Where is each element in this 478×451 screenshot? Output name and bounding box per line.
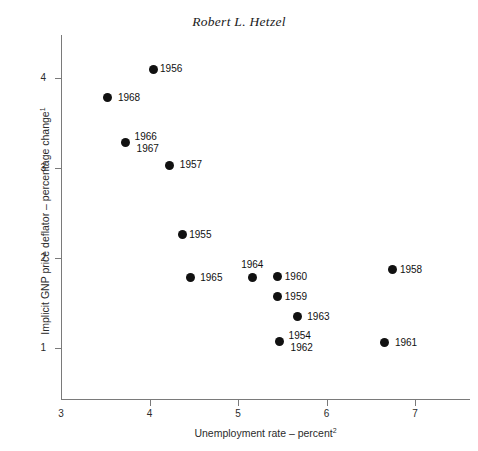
data-point-label: 1957 [180, 159, 202, 171]
y-tick-label: 4 [16, 72, 46, 83]
data-point-label: 1965 [200, 272, 222, 284]
data-point-label: 1964 [241, 259, 263, 271]
x-tick-label: 7 [400, 408, 430, 419]
x-tick-label: 4 [135, 408, 165, 419]
data-point-label: 1955 [189, 229, 211, 241]
y-tick-mark [55, 78, 61, 79]
data-point-label: 1963 [307, 311, 329, 323]
plot-area: 1234 34567 19561968196619671957195519651… [0, 0, 478, 451]
x-axis-title-superscript: 2 [333, 427, 337, 434]
x-axis-line [61, 399, 470, 400]
x-tick-mark [327, 400, 328, 406]
data-point-marker [273, 272, 282, 281]
data-point-label: 1956 [160, 63, 182, 75]
data-point-marker [273, 292, 282, 301]
data-point-label: 1960 [285, 271, 307, 283]
data-point-label: 1962 [291, 342, 313, 354]
y-axis-title-text: Implicit GNP price deflator – percentage… [39, 111, 51, 334]
x-tick-mark [415, 400, 416, 406]
data-point-label: 1968 [118, 92, 140, 104]
y-tick-mark [55, 168, 61, 169]
data-point-marker [121, 138, 130, 147]
data-point-marker [186, 273, 195, 282]
data-point-marker [293, 312, 302, 321]
x-tick-label: 3 [46, 408, 76, 419]
x-tick-mark [238, 400, 239, 406]
data-point-label: 1958 [400, 264, 422, 276]
data-point-marker [103, 93, 112, 102]
x-axis-title: Unemployment rate – percent2 [61, 427, 470, 439]
data-point-marker [165, 161, 174, 170]
y-axis-title: Implicit GNP price deflator – percentage… [39, 91, 51, 351]
data-point-label: 1967 [137, 143, 159, 155]
x-tick-label: 6 [312, 408, 342, 419]
scatter-plot-figure: Robert L. Hetzel 1234 34567 195619681966… [0, 0, 478, 451]
data-point-marker [275, 337, 284, 346]
data-point-marker [178, 230, 187, 239]
y-axis-title-superscript: 1 [39, 107, 46, 111]
data-point-marker [149, 65, 158, 74]
y-tick-mark [55, 348, 61, 349]
x-tick-label: 5 [223, 408, 253, 419]
data-point-label: 1959 [285, 291, 307, 303]
data-point-marker [388, 265, 397, 274]
y-tick-mark [55, 258, 61, 259]
x-tick-mark [150, 400, 151, 406]
data-point-label: 1966 [135, 131, 157, 143]
x-axis-title-text: Unemployment rate – percent [194, 427, 332, 439]
data-point-label: 1954 [289, 330, 311, 342]
y-axis-line [61, 35, 62, 400]
data-point-marker [248, 273, 257, 282]
data-point-label: 1961 [395, 337, 417, 349]
data-point-marker [380, 338, 389, 347]
